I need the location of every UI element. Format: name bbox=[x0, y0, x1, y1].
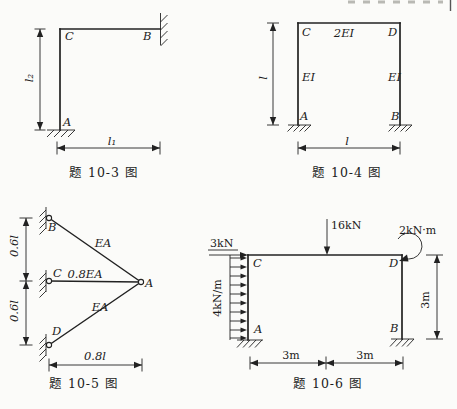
fig4-node-label-C: C bbox=[302, 25, 311, 39]
fig4-node-label-A: A bbox=[299, 109, 308, 123]
fig6-load-horizontal-label: 3kN bbox=[210, 237, 234, 250]
fig3-node-label-C: C bbox=[65, 29, 74, 43]
fig6-load-horizontal: 3kN bbox=[208, 237, 248, 258]
fig6-dim-bottom: 3m 3m bbox=[250, 349, 403, 370]
fig5-node-label-B: B bbox=[47, 220, 56, 234]
fig6-node-label-A: A bbox=[253, 322, 262, 336]
fig6-support-B bbox=[390, 339, 414, 347]
fig5-node-label-A: A bbox=[144, 276, 153, 290]
fig4-member-label-left-column: EI bbox=[301, 70, 315, 84]
fig4-node-label-B: B bbox=[390, 109, 399, 123]
fig4-caption: 题 10-4 图 bbox=[312, 165, 382, 180]
fig3-support-B bbox=[161, 13, 168, 46]
fig4-dim-vertical: l bbox=[256, 23, 279, 125]
fig6-dim-bottom-left-label: 3m bbox=[282, 349, 300, 362]
fig5-bar-label-top: EA bbox=[94, 236, 112, 250]
fig3-dim-vertical-label: l₂ bbox=[22, 73, 36, 82]
fig6-frame bbox=[248, 255, 402, 340]
fig6-node-label-C: C bbox=[253, 256, 262, 270]
fig6-load-moment-label: 2kN·m bbox=[399, 224, 437, 237]
fig5-dim-horizontal: 0.8l bbox=[49, 349, 142, 372]
fig5-node-label-D: D bbox=[51, 324, 61, 338]
fig6-support-A bbox=[237, 340, 263, 348]
fig6-node-label-D: D bbox=[388, 256, 398, 270]
figures-canvas: l₂ l₁ C B A 题 10-3 图 bbox=[0, 0, 457, 409]
fig5-node-label-C: C bbox=[53, 266, 62, 280]
fig5-dim-vertical: 0.6l 0.6l bbox=[7, 218, 33, 345]
fig6-dim-right: 3m bbox=[419, 255, 443, 339]
fig5-support-B bbox=[40, 207, 47, 235]
fig5-bar-label-middle: 0.8EA bbox=[68, 267, 103, 281]
fig3-node-label-B: B bbox=[142, 29, 151, 43]
fig5-support-D bbox=[40, 334, 47, 362]
fig3-dim-vertical: l₂ bbox=[22, 29, 46, 130]
fig5-dim-lower-label: 0.6l bbox=[7, 300, 21, 322]
fig6-dim-bottom-right-label: 3m bbox=[356, 349, 374, 362]
fig6-load-moment: 2kN·m bbox=[398, 224, 437, 262]
textbook-page: l₂ l₁ C B A 题 10-3 图 bbox=[0, 0, 457, 409]
fig-10-3: l₂ l₁ C B A 题 10-3 图 bbox=[22, 13, 168, 180]
fig4-node-label-D: D bbox=[387, 25, 397, 39]
fig4-support-B bbox=[389, 125, 413, 132]
fig-10-5: 0.6l 0.6l 0.8l B C D A EA 0.8EA EA 题 10-… bbox=[7, 207, 153, 391]
fig4-dim-horizontal-label: l bbox=[345, 134, 349, 148]
fig-10-4: l l C 2EI D EI EI A B 题 10-4 图 bbox=[256, 23, 412, 180]
fig6-dim-right-label: 3m bbox=[419, 291, 432, 309]
fig5-dim-upper-label: 0.6l bbox=[7, 235, 21, 257]
fig6-load-point: 16kN bbox=[324, 219, 362, 255]
fig6-node-label-B: B bbox=[389, 321, 398, 335]
fig3-node-label-A: A bbox=[62, 115, 71, 129]
fig3-frame bbox=[60, 29, 160, 130]
fig5-dim-horizontal-label: 0.8l bbox=[84, 349, 106, 363]
fig6-load-point-label: 16kN bbox=[331, 219, 362, 232]
fig6-load-distributed-label: 4kN/m bbox=[211, 279, 224, 317]
fig4-member-label-beam: 2EI bbox=[333, 26, 355, 40]
fig3-dim-horizontal-label: l₁ bbox=[108, 134, 116, 148]
fig3-support-A bbox=[47, 130, 75, 137]
fig3-caption: 题 10-3 图 bbox=[69, 165, 139, 180]
fig4-support-A bbox=[288, 125, 312, 132]
fig3-dim-horizontal: l₁ bbox=[57, 134, 160, 155]
fig-10-6: 3kN 4kN/m bbox=[208, 219, 443, 391]
fig5-support-C bbox=[40, 270, 47, 298]
fig5-caption: 题 10-5 图 bbox=[49, 376, 119, 391]
page-header-fragment bbox=[348, 0, 451, 11]
fig4-member-label-right-column: EI bbox=[387, 70, 401, 84]
fig4-dim-horizontal: l bbox=[298, 134, 400, 155]
fig5-bar-label-bottom: EA bbox=[91, 300, 109, 314]
fig4-dim-vertical-label: l bbox=[256, 76, 270, 80]
fig6-caption: 题 10-6 图 bbox=[293, 376, 363, 391]
fig6-load-distributed: 4kN/m bbox=[211, 255, 247, 341]
